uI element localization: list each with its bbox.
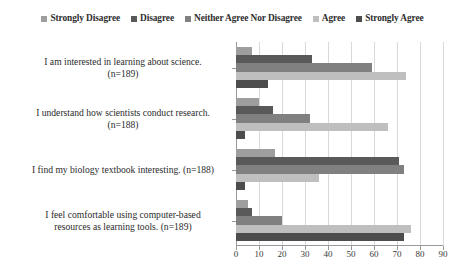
category-label-line: I find my biology textbook interesting. … [18,164,228,176]
legend-item-label: Agree [322,14,345,23]
legend-item-1[interactable]: Disagree [131,14,174,23]
category-axis-labels: I am interested in learning about scienc… [18,42,232,246]
category-tick-mark [232,221,236,222]
value-tick-label: 50 [347,250,356,259]
gridline [443,42,444,246]
category-label: I understand how scientists conduct rese… [18,107,228,131]
bar [236,98,259,106]
bar [236,182,245,190]
value-tick-label: 20 [278,250,287,259]
value-tick-mark [351,246,352,250]
bar [236,174,319,182]
value-tick-label: 10 [255,250,264,259]
value-tick-mark [236,246,237,250]
value-tick-label: 70 [393,250,402,259]
survey-bar-chart: Strongly DisagreeDisagreeNeither Agree N… [0,0,465,275]
bar [236,233,404,241]
category-label-line: (n=188) [18,119,228,131]
category-label-line: (n=189) [18,68,228,80]
bar [236,216,282,224]
value-tick-mark [282,246,283,250]
bar-group [236,93,443,144]
legend-item-label: Disagree [140,14,174,23]
category-label-line: resources as learning tools. (n=189) [18,221,228,233]
bar [236,47,252,55]
bar-group [236,195,443,246]
value-tick-mark [397,246,398,250]
value-tick-label: 60 [370,250,379,259]
bar [236,165,404,173]
value-tick-label: 30 [301,250,310,259]
category-label-line: I understand how scientists conduct rese… [18,107,228,119]
category-label: I feel comfortable using computer-basedr… [18,209,228,233]
bar [236,106,273,114]
value-tick-mark [420,246,421,250]
bar [236,131,245,139]
category-label-line: I am interested in learning about scienc… [18,56,228,68]
legend-item-2[interactable]: Neither Agree Nor Disagree [185,14,302,23]
category-tick-mark [232,68,236,69]
bar [236,225,411,233]
category-label: I find my biology textbook interesting. … [18,164,228,176]
bar [236,157,399,165]
legend-item-0[interactable]: Strongly Disagree [41,14,120,23]
bar [236,80,268,88]
legend-swatch-icon [41,16,47,22]
legend-item-label: Strongly Disagree [50,14,120,23]
value-tick-label: 90 [439,250,448,259]
bar [236,55,312,63]
chart-legend: Strongly DisagreeDisagreeNeither Agree N… [0,14,465,23]
value-tick-mark [259,246,260,250]
bar [236,149,275,157]
category-tick-mark [232,119,236,120]
bar [236,72,406,80]
bar [236,200,248,208]
category-label-line: I feel comfortable using computer-based [18,209,228,221]
category-label: I am interested in learning about scienc… [18,56,228,80]
legend-swatch-icon [131,16,137,22]
bar [236,63,372,71]
legend-swatch-icon [356,16,362,22]
legend-item-label: Strongly Agree [365,14,423,23]
bar-group [236,42,443,93]
value-tick-mark [374,246,375,250]
bar [236,123,388,131]
legend-swatch-icon [313,16,319,22]
legend-item-label: Neither Agree Nor Disagree [194,14,302,23]
bar [236,208,252,216]
legend-item-3[interactable]: Agree [313,14,345,23]
value-axis-tick-labels: 0102030405060708090 [236,250,443,266]
plot-area [236,42,443,246]
bar-group [236,144,443,195]
bar [236,114,310,122]
value-tick-label: 0 [234,250,239,259]
value-tick-mark [443,246,444,250]
legend-item-4[interactable]: Strongly Agree [356,14,423,23]
value-tick-label: 80 [416,250,425,259]
value-tick-label: 40 [324,250,333,259]
legend-swatch-icon [185,16,191,22]
value-tick-mark [328,246,329,250]
category-tick-mark [232,170,236,171]
value-tick-mark [305,246,306,250]
